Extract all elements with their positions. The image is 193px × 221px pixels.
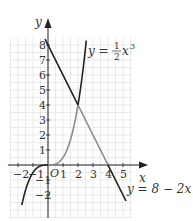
svg-text:−2: −2 [13, 168, 29, 181]
line-curve-label: y = 8 − 2x [126, 182, 191, 196]
cubic-curve-right [78, 41, 86, 105]
svg-text:x: x [122, 44, 129, 58]
svg-text:7: 7 [39, 54, 46, 67]
svg-text:−2: −2 [35, 189, 51, 202]
tick-labels: −2−112345−2−112345678 [13, 39, 127, 202]
origin-label: O [50, 167, 59, 180]
y-axis-label: y [34, 15, 42, 29]
grid [10, 38, 132, 218]
svg-text:4: 4 [39, 99, 46, 112]
svg-text:5: 5 [120, 168, 127, 181]
svg-text:3: 3 [39, 114, 46, 127]
svg-text:6: 6 [39, 69, 46, 82]
cubic-curve-label: y = 1 2 x 3 [87, 41, 135, 62]
svg-text:5: 5 [39, 84, 46, 97]
line-curve-upper [45, 39, 78, 105]
svg-text:3: 3 [130, 42, 135, 51]
svg-text:2: 2 [114, 52, 120, 62]
chart: −2−112345−2−112345678 y x O y = 1 2 x 3 … [0, 0, 193, 221]
svg-text:4: 4 [105, 168, 112, 181]
svg-text:1: 1 [60, 168, 67, 181]
svg-text:8: 8 [39, 39, 46, 52]
svg-text:1: 1 [39, 144, 46, 157]
svg-text:1: 1 [114, 41, 120, 51]
svg-text:y =: y = [87, 44, 109, 58]
svg-text:3: 3 [90, 168, 97, 181]
svg-text:2: 2 [39, 129, 46, 142]
svg-text:−1: −1 [35, 174, 51, 187]
svg-text:2: 2 [75, 168, 82, 181]
